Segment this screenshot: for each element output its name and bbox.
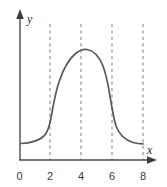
plot-area: 0 2 4 6 8 y x xyxy=(0,0,167,187)
x-axis-arrowhead xyxy=(147,156,157,164)
y-axis xyxy=(16,9,24,161)
chart-figure: 0 2 4 6 8 y x xyxy=(0,0,167,187)
x-tick-label-2: 2 xyxy=(47,170,53,182)
x-axis-label: x xyxy=(146,143,153,157)
y-axis-arrowhead xyxy=(16,9,24,19)
data-curve xyxy=(21,49,143,143)
curve-group xyxy=(21,49,143,143)
x-tick-label-6: 6 xyxy=(109,170,115,182)
gridlines-group xyxy=(50,24,143,160)
x-tick-label-4: 4 xyxy=(78,170,84,182)
x-axis xyxy=(20,156,158,164)
y-axis-label: y xyxy=(26,12,33,26)
x-tick-label-0: 0 xyxy=(16,170,22,182)
x-tick-labels: 0 2 4 6 8 xyxy=(16,170,146,182)
x-tick-label-8: 8 xyxy=(140,170,146,182)
